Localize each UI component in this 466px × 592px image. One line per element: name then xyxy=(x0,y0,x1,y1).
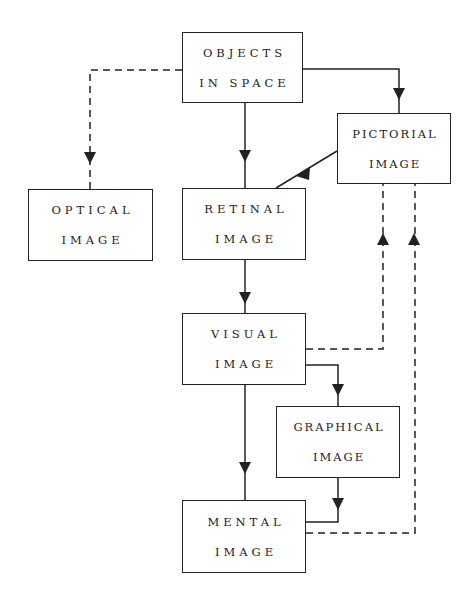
node-label: IMAGE xyxy=(215,224,277,254)
node-label: GRAPHICAL xyxy=(293,412,384,442)
arrow-diagonal-icon xyxy=(296,167,310,180)
node-mental-image: MENTAL IMAGE xyxy=(182,500,306,573)
node-label: IN SPACE xyxy=(199,68,289,98)
arrow-up-icon xyxy=(408,233,420,245)
arrow-down-icon xyxy=(239,462,251,474)
node-label: OBJECTS xyxy=(203,38,286,68)
arrow-down-icon xyxy=(332,498,344,510)
edge-mental-pictorial xyxy=(306,184,415,533)
node-visual-image: VISUAL IMAGE xyxy=(182,313,306,385)
node-label: IMAGE xyxy=(215,537,277,567)
edge-objects-optical xyxy=(90,70,182,189)
arrow-down-icon xyxy=(84,152,96,164)
arrow-down-icon xyxy=(393,88,405,100)
node-label: OPTICAL xyxy=(51,195,133,225)
node-label: MENTAL xyxy=(207,507,284,537)
arrow-down-icon xyxy=(332,384,344,396)
node-label: RETINAL xyxy=(204,194,287,224)
arrow-down-icon xyxy=(239,292,251,304)
arrow-down-icon xyxy=(239,150,251,162)
edge-objects-pictorial xyxy=(303,69,399,113)
node-pictorial-image: PICTORIAL IMAGE xyxy=(337,113,451,184)
node-label: PICTORIAL xyxy=(352,119,437,149)
node-objects-in-space: OBJECTS IN SPACE xyxy=(182,32,303,103)
edge-visual-pictorial xyxy=(306,184,383,349)
node-label: IMAGE xyxy=(215,349,277,379)
node-label: IMAGE xyxy=(313,442,365,472)
node-label: IMAGE xyxy=(369,149,421,179)
node-optical-image: OPTICAL IMAGE xyxy=(28,189,153,261)
node-retinal-image: RETINAL IMAGE xyxy=(182,188,306,260)
node-graphical-image: GRAPHICAL IMAGE xyxy=(276,406,400,478)
node-label: VISUAL xyxy=(211,319,281,349)
arrow-up-icon xyxy=(377,233,389,245)
node-label: IMAGE xyxy=(61,225,123,255)
